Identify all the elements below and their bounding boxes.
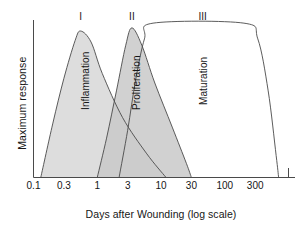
curve-label-inflammation: Inflammation [81, 52, 91, 110]
y-axis-title: Maximum response [17, 33, 28, 173]
phase-numeral-iii: III [183, 12, 223, 22]
chart-canvas [0, 0, 302, 232]
wound-healing-phases-chart: Maximum response Days after Wounding (lo… [0, 0, 302, 232]
x-axis-title: Days after Wounding (log scale) [33, 209, 289, 220]
x-tick-label-7: 300 [235, 181, 275, 191]
phase-numeral-ii: II [112, 12, 152, 22]
phase-numeral-i: I [61, 12, 101, 22]
curve-label-maturation: Maturation [199, 57, 209, 105]
curve-label-proliferation: Proliferation [132, 55, 142, 110]
curve-areas [41, 28, 192, 178]
